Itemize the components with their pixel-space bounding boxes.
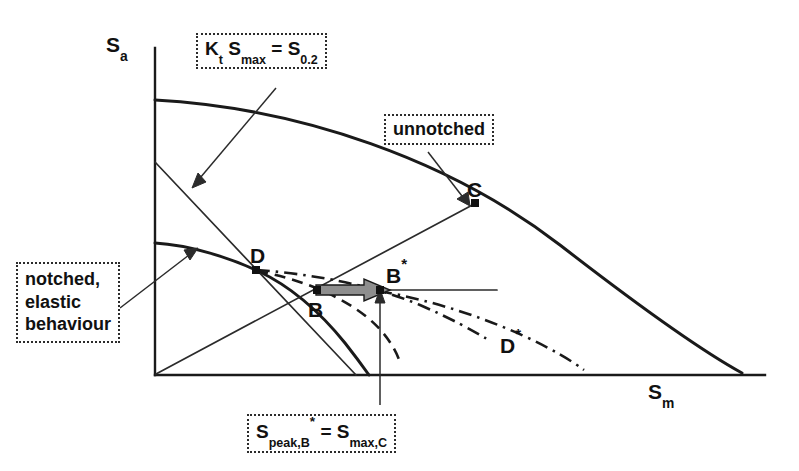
y-axis-label: Sa	[106, 34, 128, 60]
point-label-Bstar-text: B	[386, 264, 401, 287]
kt-relation-callout: Kt Smax = S0.2	[196, 33, 327, 69]
point-label-Bstar-sup: *	[401, 255, 407, 272]
peak-equals-sign: =	[320, 421, 331, 442]
x-axis-label-base: S	[648, 380, 662, 403]
smax-symbol: S	[228, 38, 241, 59]
point-label-Dstar-sup: *	[515, 325, 521, 342]
unnotched-callout-leader	[428, 152, 470, 206]
notched-elastic-callout: notched, elastic behaviour	[16, 262, 120, 343]
s02-symbol-sub: 0.2	[300, 53, 317, 67]
speak-symbol-sub: peak,B	[269, 436, 310, 450]
point-label-D: D	[250, 242, 265, 266]
peak-relation-callout: Speak,B* = Smax,C	[247, 414, 396, 453]
notched-callout-line3: behaviour	[25, 313, 111, 336]
smaxc-symbol: S	[337, 421, 350, 442]
notched-callout-line1: notched,	[25, 268, 111, 291]
point-marker-D	[252, 266, 260, 274]
point-label-Dstar-text: D	[500, 334, 515, 357]
diagram-canvas	[0, 0, 799, 471]
caption-pointer-arrow	[375, 289, 385, 405]
speak-sub-text: peak,B	[269, 436, 310, 450]
point-label-Bstar: B*	[386, 262, 407, 286]
dashdot-curve-lower	[379, 291, 584, 370]
x-axis-label-sub: m	[662, 395, 674, 411]
haigh-diagram-figure: Sa Sm Kt Smax = S0.2 unnotched notched, …	[0, 0, 799, 471]
point-label-Dstar: D*	[500, 332, 521, 356]
x-axis-label: Sm	[648, 381, 674, 407]
kt-symbol-sub: t	[219, 53, 223, 67]
smax-symbol-sub: max	[241, 53, 266, 67]
unnotched-callout: unnotched	[384, 114, 494, 145]
point-marker-B	[313, 286, 321, 294]
point-label-C-text: C	[467, 178, 482, 201]
point-label-B-text: B	[308, 298, 323, 321]
y-axis-label-sub: a	[120, 48, 128, 64]
dashdot-curve-D-to-Dstar	[257, 270, 487, 339]
notched-callout-line2: elastic	[25, 291, 111, 314]
s02-symbol: S	[288, 38, 301, 59]
speak-symbol: S	[256, 421, 269, 442]
kt-equals-sign: =	[271, 38, 282, 59]
y-axis-label-base: S	[106, 33, 120, 56]
point-marker-Bstar	[376, 286, 384, 294]
unnotched-callout-label: unnotched	[393, 119, 485, 139]
speak-symbol-sup: *	[310, 414, 315, 429]
point-label-B: B	[308, 296, 323, 320]
smaxc-symbol-sub: max,C	[349, 436, 387, 450]
notched-callout-leader	[120, 248, 198, 308]
kt-symbol: K	[205, 38, 219, 59]
point-label-C: C	[467, 176, 482, 200]
point-label-D-text: D	[250, 244, 265, 267]
